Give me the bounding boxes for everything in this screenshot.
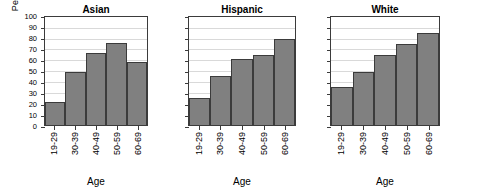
x-label-slot: 60-69 bbox=[274, 132, 296, 172]
x-tick bbox=[418, 126, 440, 130]
facet-panel-white: White 19-2930-3940-4950-5960-69 Age bbox=[330, 16, 440, 126]
x-axis-title: Age bbox=[44, 176, 148, 187]
y-tick-label: 30 bbox=[29, 90, 37, 98]
x-axis-ticks bbox=[330, 126, 440, 130]
x-tick-label: 40-49 bbox=[91, 132, 101, 155]
x-label-slot: 19-29 bbox=[44, 132, 65, 172]
y-tick-label: 40 bbox=[29, 79, 37, 87]
x-label-slot: 30-39 bbox=[210, 132, 232, 172]
bar bbox=[253, 55, 274, 125]
x-label-slot: 19-29 bbox=[188, 132, 210, 172]
bar bbox=[353, 72, 375, 125]
x-tick bbox=[210, 126, 232, 130]
x-tick bbox=[188, 126, 210, 130]
x-tick-label: 60-69 bbox=[424, 132, 434, 155]
x-axis-title: Age bbox=[330, 176, 440, 187]
x-tick-label: 50-59 bbox=[259, 132, 269, 155]
x-tick bbox=[106, 126, 127, 130]
x-tick bbox=[65, 126, 86, 130]
x-label-slot: 60-69 bbox=[418, 132, 440, 172]
x-tick-label: 19-29 bbox=[49, 132, 59, 155]
x-tick bbox=[44, 126, 65, 130]
x-tick-label: 40-49 bbox=[380, 132, 390, 155]
x-label-slot: 30-39 bbox=[65, 132, 86, 172]
x-tick bbox=[253, 126, 275, 130]
y-tick-label: 0 bbox=[33, 123, 37, 131]
x-tick bbox=[127, 126, 148, 130]
y-tick-label: 80 bbox=[29, 35, 37, 43]
panel-title: Hispanic bbox=[188, 4, 296, 15]
plot-area bbox=[330, 16, 440, 126]
x-tick-label: 30-39 bbox=[70, 132, 80, 155]
bar-series bbox=[45, 17, 147, 125]
x-tick bbox=[352, 126, 374, 130]
bar bbox=[417, 33, 439, 125]
x-tick-label: 30-39 bbox=[215, 132, 225, 155]
x-label-slot: 50-59 bbox=[396, 132, 418, 172]
x-tick-label: 60-69 bbox=[280, 132, 290, 155]
x-tick bbox=[374, 126, 396, 130]
x-tick-label: 60-69 bbox=[133, 132, 143, 155]
x-tick-label: 40-49 bbox=[237, 132, 247, 155]
x-tick bbox=[231, 126, 253, 130]
x-tick-label: 50-59 bbox=[112, 132, 122, 155]
bar bbox=[231, 59, 252, 125]
x-label-slot: 30-39 bbox=[352, 132, 374, 172]
y-tick-label: 60 bbox=[29, 57, 37, 65]
bar bbox=[127, 62, 147, 125]
x-axis-ticks bbox=[44, 126, 148, 130]
x-tick-label: 30-39 bbox=[358, 132, 368, 155]
x-label-slot: 40-49 bbox=[374, 132, 396, 172]
facet-panel-asian: Asian 0102030405060708090100 19-2930-394… bbox=[44, 16, 148, 126]
bar bbox=[274, 39, 295, 125]
x-label-slot: 60-69 bbox=[127, 132, 148, 172]
x-tick bbox=[330, 126, 352, 130]
plot-area bbox=[188, 16, 296, 126]
x-axis-tick-labels: 19-2930-3940-4950-5960-69 bbox=[330, 132, 440, 172]
bar-series bbox=[331, 17, 439, 125]
x-label-slot: 40-49 bbox=[86, 132, 107, 172]
x-label-slot: 40-49 bbox=[231, 132, 253, 172]
x-axis-tick-labels: 19-2930-3940-4950-5960-69 bbox=[44, 132, 148, 172]
bar bbox=[374, 55, 396, 125]
x-tick-label: 19-29 bbox=[194, 132, 204, 155]
x-tick bbox=[86, 126, 107, 130]
bar bbox=[189, 98, 210, 125]
bar bbox=[86, 53, 106, 125]
y-tick-label: 20 bbox=[29, 101, 37, 109]
bar-series bbox=[189, 17, 295, 125]
y-tick-label: 70 bbox=[29, 46, 37, 54]
bar bbox=[210, 76, 231, 125]
x-axis-title: Age bbox=[188, 176, 296, 187]
bar-chart-figure: Percent Asian 0102030405060708090100 19-… bbox=[0, 0, 480, 191]
x-axis-tick-labels: 19-2930-3940-4950-5960-69 bbox=[188, 132, 296, 172]
y-tick-label: 100 bbox=[24, 13, 37, 21]
panel-title: White bbox=[330, 4, 440, 15]
y-tick-label: 90 bbox=[29, 24, 37, 32]
panel-title: Asian bbox=[44, 4, 148, 15]
x-label-slot: 19-29 bbox=[330, 132, 352, 172]
bar bbox=[45, 102, 65, 125]
y-axis-tick-labels: 0102030405060708090100 bbox=[3, 17, 43, 127]
x-tick bbox=[396, 126, 418, 130]
bar bbox=[396, 44, 418, 125]
x-tick bbox=[274, 126, 296, 130]
x-tick-label: 19-29 bbox=[336, 132, 346, 155]
x-axis-ticks bbox=[188, 126, 296, 130]
facet-panel-hispanic: Hispanic 19-2930-3940-4950-5960-69 Age bbox=[188, 16, 296, 126]
plot-area: 0102030405060708090100 bbox=[44, 16, 148, 126]
x-tick-label: 50-59 bbox=[402, 132, 412, 155]
x-label-slot: 50-59 bbox=[106, 132, 127, 172]
x-label-slot: 50-59 bbox=[253, 132, 275, 172]
y-tick-label: 50 bbox=[29, 68, 37, 76]
y-tick-label: 10 bbox=[29, 112, 37, 120]
bar bbox=[106, 43, 126, 125]
bar bbox=[65, 72, 85, 125]
bar bbox=[331, 87, 353, 125]
